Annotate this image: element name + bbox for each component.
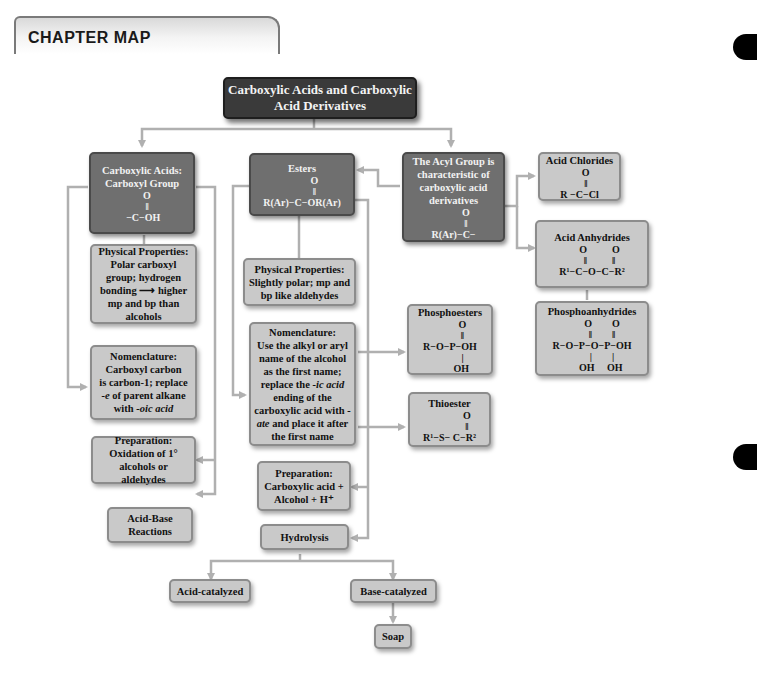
node-acyl-group: The Acyl Group is characteristic of carb…	[402, 152, 505, 242]
node-phosphoesters-label: Phosphoesters	[418, 306, 482, 319]
node-hydrolysis: Hydrolysis	[260, 524, 349, 550]
thioester-formula: O ‖ R¹−S− C−R²	[423, 410, 476, 443]
node-acid-preparation-label: Preparation: Oxidation of 1° alcohols or…	[96, 434, 191, 486]
node-phosphoanhydrides-label: Phosphoanhydrides	[548, 305, 637, 318]
node-acid-chlorides: Acid Chlorides O ‖ R −C−Cl	[538, 152, 621, 201]
acid-nomenclature-line4: -e of parent alkane	[101, 389, 185, 402]
phosphoester-formula: O ‖ R−O−P−OH | OH	[423, 319, 477, 374]
acid-nomenclature-italic2: -oic acid	[136, 403, 173, 414]
connector-acyl-to-anhydrides	[517, 206, 534, 248]
node-base-catalyzed-label: Base-catalyzed	[360, 585, 426, 598]
node-root: Carboxylic Acids and Carboxylic Acid Der…	[223, 77, 417, 119]
node-acid-preparation: Preparation: Oxidation of 1° alcohols or…	[91, 436, 196, 484]
node-acid-catalyzed-label: Acid-catalyzed	[177, 585, 243, 598]
ester-nomenclature-heading: Nomenclature:	[269, 326, 336, 339]
node-acid-physical-properties-label: Physical Properties: Polar carboxyl grou…	[95, 245, 192, 323]
node-ester-preparation-label: Preparation: Carboxylic acid + Alcohol +…	[262, 467, 346, 506]
node-ester-physical-properties-label: Physical Properties: Slightly polar; mp …	[248, 263, 351, 302]
acid-nomenclature-line5: with -oic acid	[114, 402, 174, 415]
node-acid-physical-properties: Physical Properties: Polar carboxyl grou…	[90, 244, 197, 324]
node-soap-label: Soap	[382, 630, 404, 643]
phosphoanhydride-formula: O O ‖ ‖ R−O−P−O−P−OH | | OH OH	[552, 318, 631, 373]
node-ester-physical-properties: Physical Properties: Slightly polar; mp …	[243, 258, 356, 306]
node-root-label: Carboxylic Acids and Carboxylic Acid Der…	[228, 82, 412, 114]
acyl-formula: O ‖ R(Ar)−C−	[431, 207, 475, 240]
node-acid-anhydrides-label: Acid Anhydrides	[554, 231, 630, 244]
connector-root-to-acids	[142, 129, 314, 146]
node-carboxylic-acids: Carboxylic Acids: Carboxyl Group O ‖ −C−…	[89, 152, 195, 234]
connector-acids-to-acidbase	[196, 187, 215, 494]
node-carboxylic-acids-line1: Carboxylic Acids:	[102, 164, 182, 177]
node-thioester: Thioester O ‖ R¹−S− C−R²	[408, 392, 491, 447]
node-thioester-label: Thioester	[428, 397, 471, 410]
node-acid-nomenclature: Nomenclature: Carboxyl carbon is carbon-…	[90, 345, 197, 420]
node-phosphoesters: Phosphoesters O ‖ R−O−P−OH | OH	[407, 304, 493, 375]
node-acid-base-reactions: Acid-Base Reactions	[107, 507, 193, 543]
node-phosphoanhydrides: Phosphoanhydrides O O ‖ ‖ R−O−P−O−P−OH |…	[535, 301, 649, 376]
node-base-catalyzed: Base-catalyzed	[350, 579, 437, 603]
connector-hydrolysis-to-acid-cat	[211, 561, 300, 579]
node-ester-nomenclature: Nomenclature: Use the alkyl or aryl name…	[249, 322, 356, 446]
acid-nomenclature-line1: Nomenclature:	[110, 350, 177, 363]
connector-acids-to-nomenclature	[68, 187, 88, 387]
node-hydrolysis-label: Hydrolysis	[280, 531, 328, 544]
node-carboxylic-acids-line2: Carboxyl Group	[105, 177, 179, 190]
node-acid-base-label: Acid-Base Reactions	[112, 512, 188, 538]
acid-nomenclature-italic1: -e	[101, 390, 109, 401]
ester-formula: O ‖ R(Ar)−C−OR(Ar)	[263, 175, 340, 208]
connector-acyl-to-esters	[358, 170, 400, 186]
connector-acyl-to-chlorides	[505, 176, 534, 206]
node-acid-chlorides-label: Acid Chlorides	[546, 154, 613, 167]
node-acyl-group-label: The Acyl Group is characteristic of carb…	[407, 155, 500, 207]
node-esters: Esters O ‖ R(Ar)−C−OR(Ar)	[249, 153, 355, 216]
node-esters-label: Esters	[288, 162, 316, 175]
ester-nomenclature-body: Use the alkyl or aryl name of the alcoho…	[254, 339, 351, 443]
acid-anhydride-formula: O O ‖ ‖ R¹−C−O−C−R²	[559, 244, 624, 277]
connector-root-to-acyl	[314, 129, 451, 146]
node-acid-catalyzed: Acid-catalyzed	[169, 579, 251, 603]
acid-nomenclature-line2: Carboxyl carbon	[105, 363, 181, 376]
acid-chloride-formula: O ‖ R −C−Cl	[560, 167, 598, 200]
node-acid-anhydrides: Acid Anhydrides O O ‖ ‖ R¹−C−O−C−R²	[535, 220, 649, 288]
acid-nomenclature-line3: is carbon-1; replace	[99, 376, 187, 389]
node-ester-preparation: Preparation: Carboxylic acid + Alcohol +…	[257, 461, 351, 511]
node-soap: Soap	[374, 624, 412, 649]
connector-hydrolysis-to-base-cat	[300, 561, 393, 579]
carboxyl-formula: O ‖ −C−OH	[124, 190, 161, 223]
